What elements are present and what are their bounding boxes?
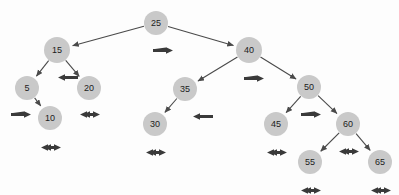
tree-node-65[interactable]: 65	[368, 150, 392, 174]
tree-node-label: 25	[151, 18, 161, 28]
tree-node-40[interactable]: 40	[236, 37, 262, 63]
tree-node-label: 10	[45, 113, 55, 123]
double-headed-arrow-icon-60	[338, 142, 360, 160]
tree-edge-n25-to-n15	[73, 26, 144, 45]
tree-node-label: 55	[305, 157, 315, 167]
right-arrow-icon-50	[300, 105, 322, 123]
tree-edge-n40-to-n35	[198, 57, 237, 81]
tree-node-label: 45	[271, 119, 281, 129]
tree-edge-n5-to-n10	[35, 98, 41, 106]
double-headed-arrow-icon-20	[79, 105, 101, 123]
tree-node-50[interactable]: 50	[297, 75, 321, 99]
right-arrow-icon-40	[243, 69, 265, 87]
tree-node-15[interactable]: 15	[44, 37, 70, 63]
left-arrow-icon-15	[57, 68, 79, 86]
tree-node-label: 20	[84, 83, 94, 93]
double-headed-arrow-icon-45	[266, 143, 288, 161]
tree-node-label: 50	[304, 82, 314, 92]
tree-edge-n60-to-n55	[321, 133, 339, 151]
tree-node-label: 15	[52, 45, 62, 55]
tree-edge-n35-to-n30	[165, 98, 177, 112]
tree-node-10[interactable]: 10	[38, 106, 62, 130]
tree-node-60[interactable]: 60	[336, 112, 360, 136]
tree-node-label: 60	[343, 119, 353, 129]
tree-node-45[interactable]: 45	[264, 112, 288, 136]
tree-node-20[interactable]: 20	[77, 76, 101, 100]
right-arrow-icon-5	[10, 105, 32, 123]
right-arrow-icon-25	[152, 41, 174, 59]
tree-node-25[interactable]: 25	[144, 11, 168, 35]
double-headed-arrow-icon-65	[370, 181, 392, 195]
tree-diagram-canvas: 2515405203550103045605565	[0, 0, 399, 195]
tree-node-55[interactable]: 55	[298, 150, 322, 174]
tree-node-label: 5	[24, 83, 29, 93]
tree-edges-layer	[0, 0, 399, 195]
tree-node-label: 30	[150, 119, 160, 129]
double-headed-arrow-icon-55	[300, 181, 322, 195]
tree-node-30[interactable]: 30	[143, 112, 167, 136]
tree-node-label: 65	[375, 157, 385, 167]
tree-node-label: 35	[180, 84, 190, 94]
tree-node-5[interactable]: 5	[15, 76, 39, 100]
tree-node-35[interactable]: 35	[173, 77, 197, 101]
tree-edge-n50-to-n45	[286, 96, 301, 112]
tree-edge-n15-to-n5	[36, 61, 48, 76]
double-headed-arrow-icon-30	[145, 143, 167, 161]
tree-node-label: 40	[244, 45, 254, 55]
tree-edge-n25-to-n40	[168, 26, 233, 45]
double-headed-arrow-icon-10	[40, 138, 62, 156]
tree-edge-n40-to-n50	[260, 57, 296, 79]
left-arrow-icon-35	[192, 107, 214, 125]
